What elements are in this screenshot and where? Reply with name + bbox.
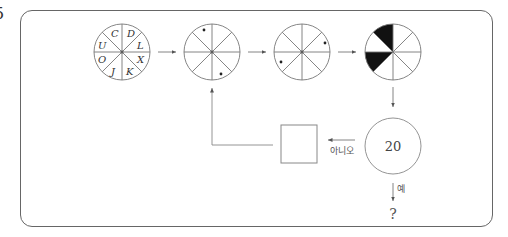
letter-o: O xyxy=(98,54,106,65)
letter-c: C xyxy=(111,28,119,39)
wheel-lettered xyxy=(94,24,150,80)
result-question-mark: ? xyxy=(389,206,397,222)
wheel-shaded xyxy=(365,24,421,80)
dot xyxy=(324,42,327,45)
no-label: 아니오 xyxy=(330,146,354,156)
letter-l: L xyxy=(136,40,144,51)
letter-j: J xyxy=(109,66,116,77)
letter-k: K xyxy=(125,66,134,77)
yes-label: 예 xyxy=(397,184,405,194)
letter-x: X xyxy=(136,54,145,65)
dot xyxy=(280,61,283,64)
process-box xyxy=(281,125,317,163)
wheel-dotted-2 xyxy=(274,24,330,80)
letter-d: D xyxy=(126,28,135,39)
wheel-dotted-1 xyxy=(184,24,240,80)
decision-value: 20 xyxy=(385,139,402,154)
decision-circle: 20 xyxy=(365,118,421,174)
letter-u: U xyxy=(98,40,107,51)
flow-diagram: D L X K J O U C xyxy=(0,0,508,237)
dot xyxy=(203,29,206,32)
loop-arrow xyxy=(212,88,273,145)
dot xyxy=(220,73,223,76)
